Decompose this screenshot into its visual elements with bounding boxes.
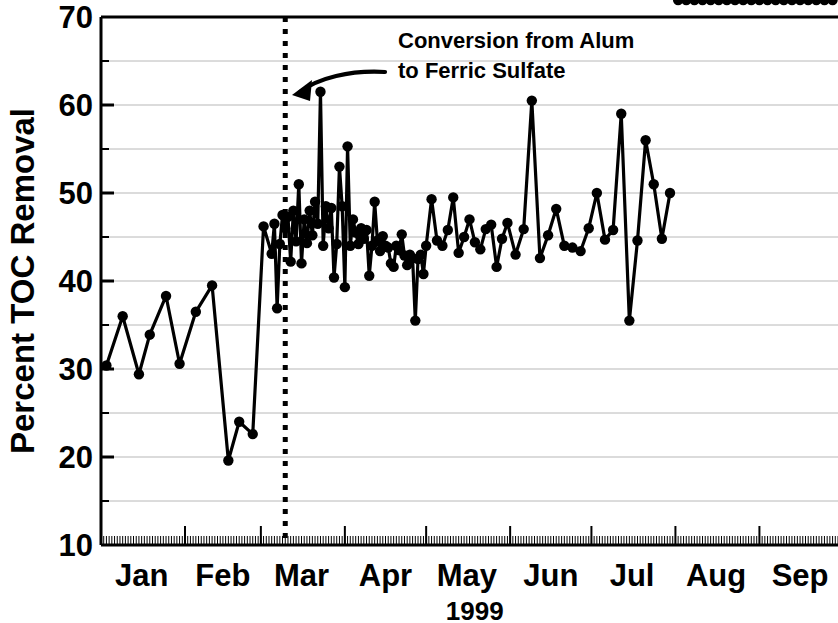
chart-canvas: 10203040506070JanFebMarAprMayJunJulAugSe… <box>0 0 838 623</box>
y-tick-label: 60 <box>59 88 93 123</box>
y-tick-label: 10 <box>59 528 93 563</box>
data-point-marker <box>307 230 317 240</box>
data-point-marker <box>337 201 347 211</box>
data-point-marker <box>497 234 507 244</box>
data-point-marker <box>299 214 309 224</box>
data-point-marker <box>448 192 458 202</box>
data-point-marker <box>258 221 268 231</box>
data-point-marker <box>551 204 561 214</box>
data-point-marker <box>437 241 447 251</box>
data-point-marker <box>649 179 659 189</box>
x-axis-month-label: Mar <box>274 558 329 593</box>
data-point-marker <box>294 179 304 189</box>
data-point-marker <box>378 231 388 241</box>
data-point-marker <box>248 429 258 439</box>
data-point-marker <box>632 235 642 245</box>
data-point-marker <box>207 280 217 290</box>
data-point-marker <box>296 258 306 268</box>
data-point-marker <box>291 236 301 246</box>
data-point-marker <box>340 282 350 292</box>
data-point-marker <box>640 135 650 145</box>
data-point-marker <box>313 219 323 229</box>
data-point-marker <box>161 291 171 301</box>
data-point-marker <box>459 232 469 242</box>
data-point-marker <box>608 225 618 235</box>
data-point-marker <box>453 248 463 258</box>
y-tick-label: 50 <box>59 176 93 211</box>
data-point-marker <box>332 239 342 249</box>
data-point-marker <box>388 262 398 272</box>
data-point-marker <box>267 249 277 259</box>
data-point-marker <box>326 203 336 213</box>
data-point-marker <box>502 218 512 228</box>
data-point-marker <box>624 315 634 325</box>
toc-removal-chart: 10203040506070JanFebMarAprMayJunJulAugSe… <box>0 0 838 623</box>
data-point-marker <box>592 188 602 198</box>
data-point-marker <box>600 234 610 244</box>
y-tick-label: 20 <box>59 440 93 475</box>
data-point-marker <box>117 311 127 321</box>
annotation-label-line2: to Ferric Sulfate <box>398 58 565 83</box>
data-point-marker <box>464 214 474 224</box>
data-point-marker <box>426 194 436 204</box>
data-point-marker <box>657 234 667 244</box>
data-point-marker <box>665 188 675 198</box>
annotation-label-line1: Conversion from Alum <box>398 28 634 53</box>
data-point-marker <box>272 303 282 313</box>
data-point-marker <box>475 244 485 254</box>
data-point-marker <box>234 417 244 427</box>
data-point-marker <box>359 234 369 244</box>
x-axis-month-label: Feb <box>195 558 250 593</box>
data-point-marker <box>397 229 407 239</box>
data-point-marker <box>323 223 333 233</box>
x-axis-month-label: Sep <box>772 558 829 593</box>
data-point-marker <box>421 241 431 251</box>
data-point-marker <box>361 225 371 235</box>
data-point-marker <box>616 109 626 119</box>
data-point-marker <box>486 219 496 229</box>
data-point-marker <box>334 161 344 171</box>
data-point-marker <box>575 246 585 256</box>
x-axis-month-label: May <box>437 558 498 593</box>
data-point-marker <box>369 197 379 207</box>
data-point-marker <box>318 241 328 251</box>
x-axis-month-label: Jan <box>115 558 168 593</box>
chart-background <box>0 0 838 623</box>
data-point-marker <box>510 249 520 259</box>
data-point-marker <box>418 269 428 279</box>
data-point-marker <box>348 214 358 224</box>
x-axis-month-label: Apr <box>359 558 412 593</box>
data-point-marker <box>223 455 233 465</box>
y-tick-label: 40 <box>59 264 93 299</box>
data-point-marker <box>315 87 325 97</box>
data-point-marker <box>543 230 553 240</box>
data-point-marker <box>288 205 298 215</box>
x-axis-month-label: Jun <box>523 558 578 593</box>
data-point-marker <box>174 359 184 369</box>
y-tick-label: 70 <box>59 0 93 35</box>
data-point-marker <box>134 369 144 379</box>
data-point-marker <box>145 329 155 339</box>
data-point-marker <box>191 307 201 317</box>
y-tick-label: 30 <box>59 352 93 387</box>
data-point-marker <box>584 223 594 233</box>
data-point-marker <box>535 253 545 263</box>
data-point-marker <box>443 225 453 235</box>
data-point-marker <box>491 262 501 272</box>
data-point-marker <box>518 224 528 234</box>
data-point-marker <box>310 197 320 207</box>
data-point-marker <box>329 272 339 282</box>
data-point-marker <box>364 271 374 281</box>
x-axis-year-label: 1999 <box>446 596 504 623</box>
data-point-marker <box>342 141 352 151</box>
data-point-marker <box>410 315 420 325</box>
data-point-marker <box>269 219 279 229</box>
data-point-marker <box>101 360 111 370</box>
data-point-marker <box>304 205 314 215</box>
y-axis-title: Percent TOC Removal <box>4 108 41 454</box>
data-point-marker <box>527 95 537 105</box>
data-point-marker <box>416 249 426 259</box>
x-axis-month-label: Jul <box>610 558 655 593</box>
x-axis-month-label: Aug <box>686 558 746 593</box>
